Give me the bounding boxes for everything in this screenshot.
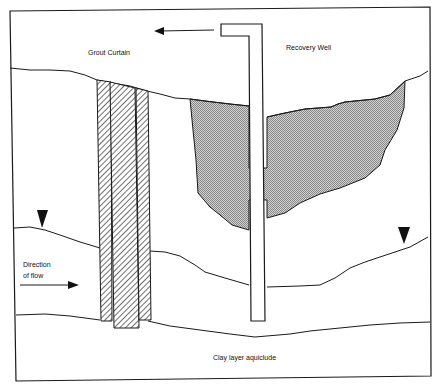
grout-curtain [97, 80, 151, 328]
grout-panel-right [136, 88, 151, 320]
label-recovery-well: Recovery Well [286, 43, 331, 52]
groundwater-cross-section-diagram [0, 0, 442, 387]
label-direction-of-flow-2: of flow [23, 271, 43, 280]
label-clay-layer: Clay layer aquiclude [213, 353, 276, 362]
grout-panel-middle [110, 82, 139, 328]
label-grout-curtain: Grout Curtain [88, 48, 130, 57]
label-direction-of-flow-1: Direction [23, 260, 51, 269]
